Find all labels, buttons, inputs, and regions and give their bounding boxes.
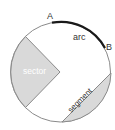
circle-parts-diagram: A B arc sector segment <box>0 0 115 130</box>
sector-label: sector <box>23 66 46 76</box>
point-b-label: B <box>106 42 112 52</box>
arc-label: arc <box>73 32 86 42</box>
point-a-label: A <box>47 11 53 21</box>
